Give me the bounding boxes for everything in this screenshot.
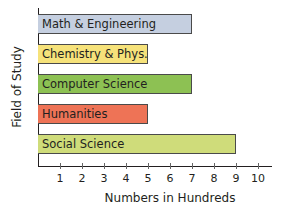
x-tick bbox=[126, 163, 127, 169]
x-tick-label: 5 bbox=[138, 172, 158, 185]
bar-label: Computer Science bbox=[38, 77, 147, 91]
x-tick-label: 2 bbox=[72, 172, 92, 185]
x-tick bbox=[214, 163, 215, 169]
bar-label: Math & Engineering bbox=[38, 17, 156, 31]
x-tick bbox=[148, 163, 149, 169]
bar-chemistry-physics: Chemistry & Phys. bbox=[38, 44, 148, 64]
x-tick bbox=[82, 163, 83, 169]
x-tick-label: 9 bbox=[226, 172, 246, 185]
bar-label: Humanities bbox=[38, 107, 107, 121]
x-tick bbox=[60, 163, 61, 169]
x-tick bbox=[236, 163, 237, 169]
x-tick bbox=[104, 163, 105, 169]
bar-label: Chemistry & Phys. bbox=[38, 47, 148, 61]
x-tick bbox=[258, 163, 259, 169]
x-tick-label: 8 bbox=[204, 172, 224, 185]
x-axis-label: Numbers in Hundreds bbox=[100, 191, 240, 205]
bar-humanities: Humanities bbox=[38, 104, 148, 124]
x-tick bbox=[170, 163, 171, 169]
x-tick-label: 10 bbox=[248, 172, 268, 185]
bar-chart: Field of Study Math & Engineering Chemis… bbox=[0, 0, 285, 220]
x-tick-label: 3 bbox=[94, 172, 114, 185]
x-tick-label: 4 bbox=[116, 172, 136, 185]
bar-computer-science: Computer Science bbox=[38, 74, 192, 94]
bar-math-engineering: Math & Engineering bbox=[38, 14, 192, 34]
x-tick-label: 1 bbox=[50, 172, 70, 185]
x-tick bbox=[192, 163, 193, 169]
bar-label: Social Science bbox=[38, 137, 124, 151]
x-tick-label: 6 bbox=[160, 172, 180, 185]
bar-social-science: Social Science bbox=[38, 134, 236, 154]
x-tick-label: 7 bbox=[182, 172, 202, 185]
y-axis-label: Field of Study bbox=[10, 42, 24, 132]
